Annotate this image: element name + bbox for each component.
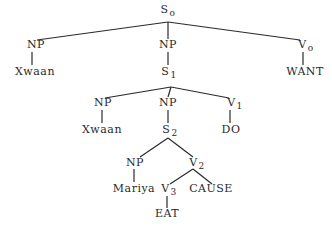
node-label: NP [126, 156, 144, 169]
tree-node-cause: CAUSE [189, 183, 233, 195]
tree-node-do: DO [222, 124, 241, 136]
node-subscript: 1 [170, 70, 176, 80]
node-label: S [161, 65, 169, 78]
node-label: CAUSE [189, 182, 233, 195]
node-label: Mariya [113, 182, 155, 195]
node-subscript: o [170, 8, 176, 18]
tree-node-np-a: NP [27, 39, 45, 51]
node-label: EAT [155, 207, 179, 220]
node-label: V [189, 156, 197, 169]
node-subscript: 2 [199, 161, 205, 171]
tree-node-v3: V3 [161, 183, 177, 198]
tree-node-np-b: NP [159, 39, 177, 51]
tree-node-np-c: NP [94, 97, 112, 109]
tree-node-s2: S2 [162, 124, 177, 139]
tree-edge [168, 22, 300, 40]
node-label: S [162, 123, 170, 136]
node-subscript: 3 [171, 187, 177, 197]
tree-node-np-d: NP [159, 97, 177, 109]
tree-node-mariya: Mariya [113, 183, 155, 195]
tree-node-v0: Vo [298, 39, 313, 54]
node-subscript: o [308, 43, 314, 53]
tree-node-v2: V2 [189, 157, 205, 172]
tree-node-want: WANT [286, 66, 324, 78]
node-label: Xwaan [15, 65, 55, 78]
tree-node-v1: V1 [227, 97, 243, 112]
node-label: DO [222, 123, 241, 136]
tree-node-eat: EAT [155, 208, 179, 220]
syntax-tree-diagram: SoNPXwaanNPS1VoWANTNPXwaanNPS2V1DONPMari… [0, 0, 332, 230]
tree-node-xwaan-a: Xwaan [15, 66, 55, 78]
node-label: V [298, 38, 306, 51]
tree-node-np-e: NP [126, 157, 144, 169]
tree-node-s0: So [161, 4, 176, 19]
node-subscript: 2 [171, 128, 177, 138]
node-label: NP [94, 96, 112, 109]
node-label: Xwaan [82, 123, 122, 136]
node-label: V [227, 96, 235, 109]
tree-edge [140, 138, 168, 157]
tree-node-xwaan-b: Xwaan [82, 124, 122, 136]
node-label: NP [159, 38, 177, 51]
node-label: V [161, 182, 169, 195]
tree-edge [37, 22, 168, 40]
node-label: NP [27, 38, 45, 51]
node-subscript: 1 [237, 101, 243, 111]
node-label: S [161, 3, 169, 16]
tree-node-s1: S1 [161, 66, 176, 81]
node-label: NP [159, 96, 177, 109]
tree-edge [171, 87, 229, 98]
node-label: WANT [286, 65, 324, 78]
tree-edge [168, 138, 193, 157]
